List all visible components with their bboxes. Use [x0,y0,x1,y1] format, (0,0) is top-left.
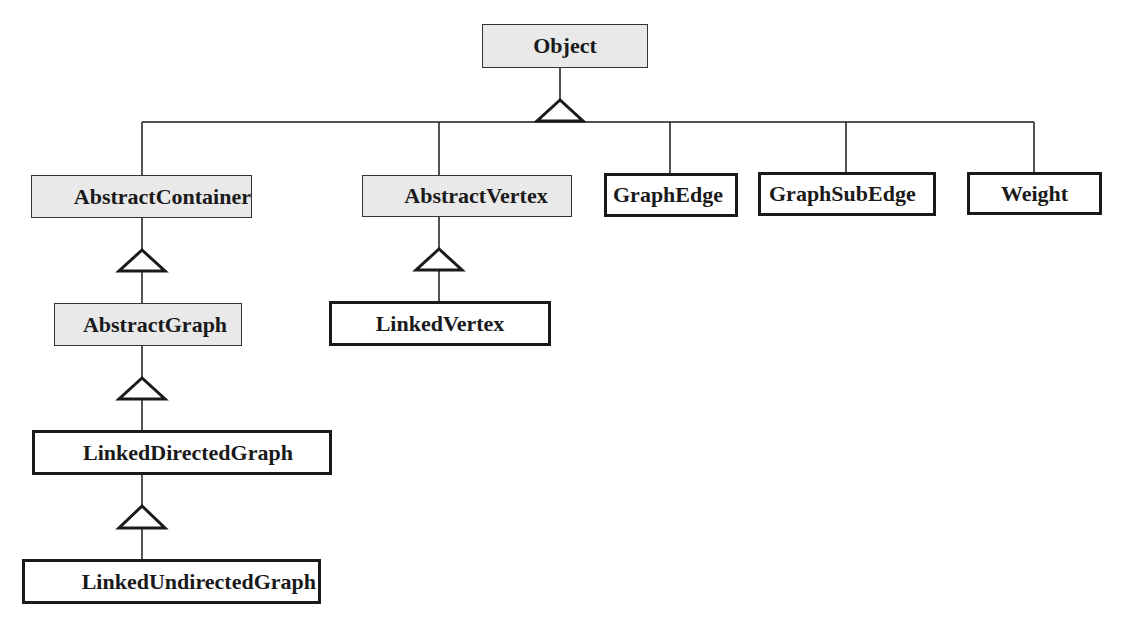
generalization-arrow-icon [119,506,165,528]
generalization-arrow-icon [119,250,165,271]
class-graph-sub-edge[interactable]: GraphSubEdge [758,172,936,216]
generalization-arrow-icon [416,249,462,270]
class-label: Weight [1001,181,1068,207]
class-hierarchy-diagram: Object AbstractContainer AbstractVertex … [0,0,1126,627]
class-linked-undirected-graph[interactable]: LinkedUndirectedGraph [22,559,321,604]
class-abstract-graph[interactable]: AbstractGraph [54,303,242,346]
class-label: GraphSubEdge [769,181,916,207]
class-abstract-container[interactable]: AbstractContainer [31,175,252,218]
class-label: AbstractGraph [69,312,227,338]
class-label: AbstractVertex [386,183,547,209]
generalization-arrow-icon [537,100,583,121]
class-object[interactable]: Object [482,24,648,68]
class-label: LinkedVertex [376,311,505,337]
class-graph-edge[interactable]: GraphEdge [604,173,738,217]
class-label: LinkedUndirectedGraph [82,569,316,595]
class-weight[interactable]: Weight [967,172,1102,215]
class-label: GraphEdge [613,182,723,208]
class-label: Object [533,33,597,59]
class-linked-vertex[interactable]: LinkedVertex [329,301,551,346]
class-abstract-vertex[interactable]: AbstractVertex [362,175,572,217]
generalization-arrow-icon [119,378,165,399]
class-label: AbstractContainer [74,184,251,210]
class-linked-directed-graph[interactable]: LinkedDirectedGraph [32,430,332,475]
class-label: LinkedDirectedGraph [71,440,293,466]
